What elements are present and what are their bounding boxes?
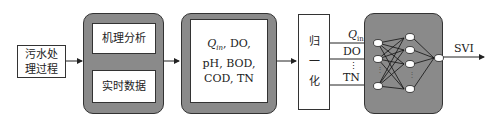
neural-network-graph bbox=[0, 0, 498, 124]
hidden-node bbox=[406, 61, 415, 68]
hidden-node bbox=[406, 34, 415, 41]
output-label-svi: SVI bbox=[454, 41, 474, 56]
input-node bbox=[374, 83, 383, 90]
network-hidden-ellipsis: ⋮ bbox=[408, 70, 416, 79]
network-input-ellipsis: ⋮ bbox=[376, 65, 384, 74]
hidden-node bbox=[406, 47, 415, 54]
input-node bbox=[374, 56, 383, 63]
output-node bbox=[435, 55, 444, 62]
input-node bbox=[374, 40, 383, 47]
hidden-node bbox=[406, 86, 415, 93]
